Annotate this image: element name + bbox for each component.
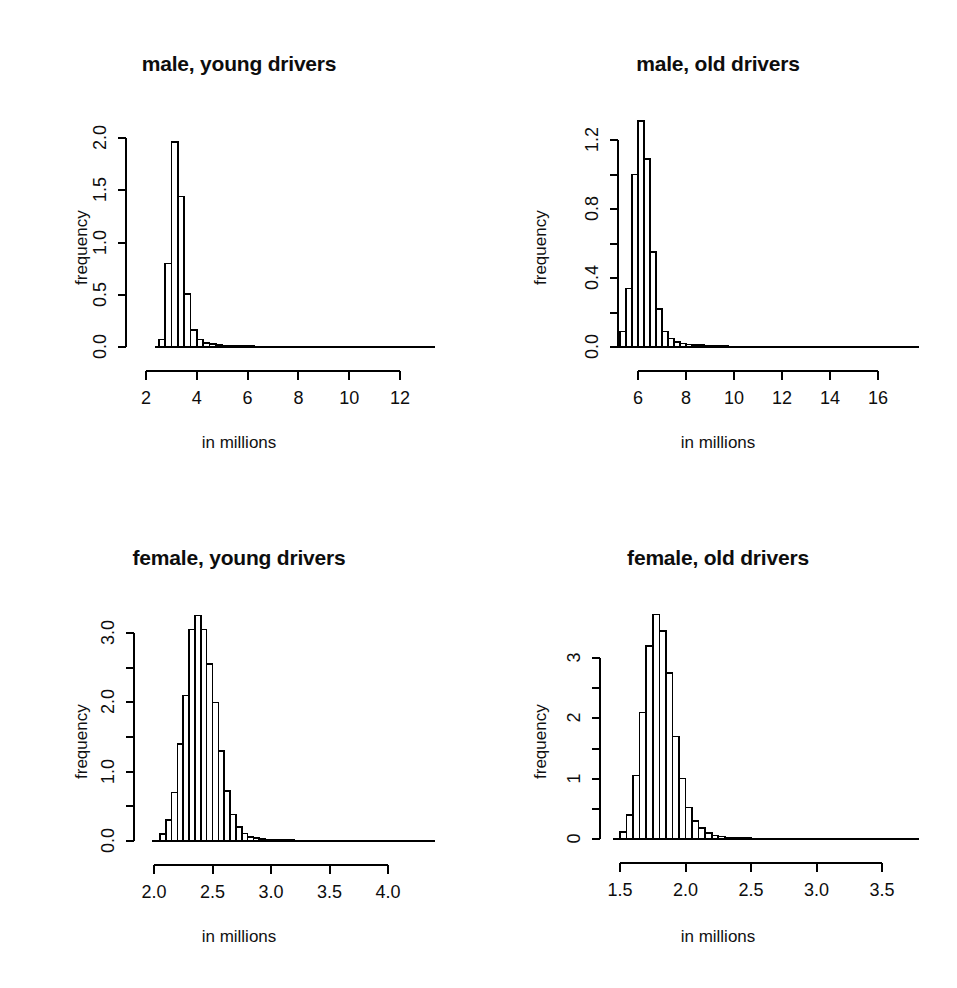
histogram-bar (692, 821, 699, 839)
y-tick-label-female-old: 1 (564, 760, 585, 796)
x-tick-label-male-young: 8 (273, 388, 323, 409)
x-tick-label-female-old: 2.5 (726, 880, 776, 901)
histogram-bar (666, 673, 673, 839)
panel-male-young: male, young drivers frequency in million… (0, 0, 478, 494)
histogram-bar (640, 712, 647, 839)
x-tick-label-male-young: 2 (121, 388, 171, 409)
histogram-bars-male-young (159, 142, 426, 347)
x-axis-male-old (638, 371, 878, 380)
histogram-bar (172, 792, 178, 841)
histogram-bars-female-young (160, 616, 417, 841)
histogram-bar (672, 736, 679, 839)
x-tick-label-male-old: 14 (805, 388, 855, 409)
x-tick-label-male-old: 8 (661, 388, 711, 409)
x-axis-female-old (620, 863, 882, 872)
plot-area-female-young (0, 494, 478, 988)
histogram-bar (171, 142, 177, 347)
histogram-bar (207, 664, 213, 841)
histogram-bar (159, 340, 165, 347)
panel-male-old: male, old drivers frequency in millions … (479, 0, 957, 494)
x-tick-label-male-old: 10 (709, 388, 759, 409)
histogram-bar (189, 630, 195, 841)
y-tick-label-female-old: 3 (564, 640, 585, 676)
histogram-bar (236, 827, 242, 841)
histogram-bar (646, 646, 653, 839)
histogram-bar (190, 330, 196, 347)
histogram-bar (195, 616, 201, 841)
histogram-bar (201, 630, 207, 841)
x-tick-label-male-young: 4 (172, 388, 222, 409)
y-tick-label-male-old: 0.4 (582, 260, 603, 296)
x-tick-label-male-old: 6 (613, 388, 663, 409)
histogram-bar (679, 779, 686, 839)
y-tick-label-male-young: 1.5 (90, 172, 111, 208)
plot-area-male-young (0, 0, 478, 494)
x-tick-label-female-young: 3.5 (305, 882, 355, 903)
histogram-bar (659, 631, 666, 839)
x-tick-label-female-old: 2.0 (661, 880, 711, 901)
x-tick-label-male-young: 10 (324, 388, 374, 409)
histogram-bar (656, 309, 662, 347)
histogram-bar (668, 338, 674, 347)
histogram-bar (644, 159, 650, 347)
histogram-bar (626, 288, 632, 347)
histogram-bar (160, 834, 166, 841)
y-tick-label-male-old: 1.2 (582, 122, 603, 158)
histogram-bar (627, 815, 634, 839)
histogram-bar (242, 833, 248, 841)
y-tick-label-female-young: 3.0 (98, 615, 119, 651)
histogram-bars-male-old (620, 121, 884, 347)
histogram-bar (184, 294, 190, 347)
y-tick-label-male-young: 2.0 (90, 120, 111, 156)
panel-female-young: female, young drivers frequency in milli… (0, 494, 478, 988)
histogram-bar (650, 252, 656, 347)
y-tick-label-male-young: 1.0 (90, 224, 111, 260)
y-tick-label-female-young: 1.0 (98, 753, 119, 789)
histogram-bar (177, 744, 183, 841)
histogram-bar (218, 751, 224, 841)
histogram-bar (699, 828, 706, 839)
x-tick-label-female-young: 2.0 (129, 882, 179, 903)
y-tick-label-male-old: 0.0 (582, 329, 603, 365)
y-tick-label-male-young: 0.0 (90, 329, 111, 365)
x-tick-label-female-old: 3.0 (792, 880, 842, 901)
x-tick-label-male-old: 16 (853, 388, 903, 409)
x-tick-label-female-young: 4.0 (363, 882, 413, 903)
histogram-bar (662, 331, 668, 347)
x-tick-label-female-old: 3.5 (857, 880, 907, 901)
histogram-bar (224, 791, 230, 841)
histogram-bar (178, 197, 184, 347)
histogram-bar (183, 695, 189, 841)
histogram-bar (653, 615, 660, 839)
histogram-figure: male, young drivers frequency in million… (0, 0, 957, 988)
histogram-bar (213, 702, 219, 841)
x-tick-label-male-young: 12 (375, 388, 425, 409)
x-axis-male-young (146, 371, 400, 380)
plot-area-female-old (479, 494, 957, 988)
histogram-bar (166, 820, 172, 841)
y-axis-male-young (118, 138, 126, 347)
y-tick-label-male-young: 0.5 (90, 276, 111, 312)
y-axis-female-old (592, 658, 600, 839)
y-tick-label-female-young: 0.0 (98, 823, 119, 859)
x-tick-label-female-young: 3.0 (246, 882, 296, 903)
histogram-bar (197, 340, 203, 347)
histogram-bar (620, 832, 627, 839)
histogram-bar (165, 263, 171, 347)
y-axis-female-young (126, 633, 134, 841)
histogram-bar (686, 808, 693, 839)
plot-area-male-old (479, 0, 957, 494)
y-tick-label-female-old: 0 (564, 821, 585, 857)
x-tick-label-male-young: 6 (223, 388, 273, 409)
histogram-bar (230, 815, 236, 841)
x-tick-label-male-old: 12 (757, 388, 807, 409)
x-tick-label-female-old: 1.5 (595, 880, 645, 901)
y-axis-male-old (610, 140, 618, 347)
panel-female-old: female, old drivers frequency in million… (479, 494, 957, 988)
histogram-bar (632, 175, 638, 348)
y-tick-label-female-young: 2.0 (98, 684, 119, 720)
histogram-bars-female-old (620, 615, 875, 839)
x-tick-label-female-young: 2.5 (188, 882, 238, 903)
histogram-bar (638, 121, 644, 347)
histogram-bar (633, 776, 640, 839)
